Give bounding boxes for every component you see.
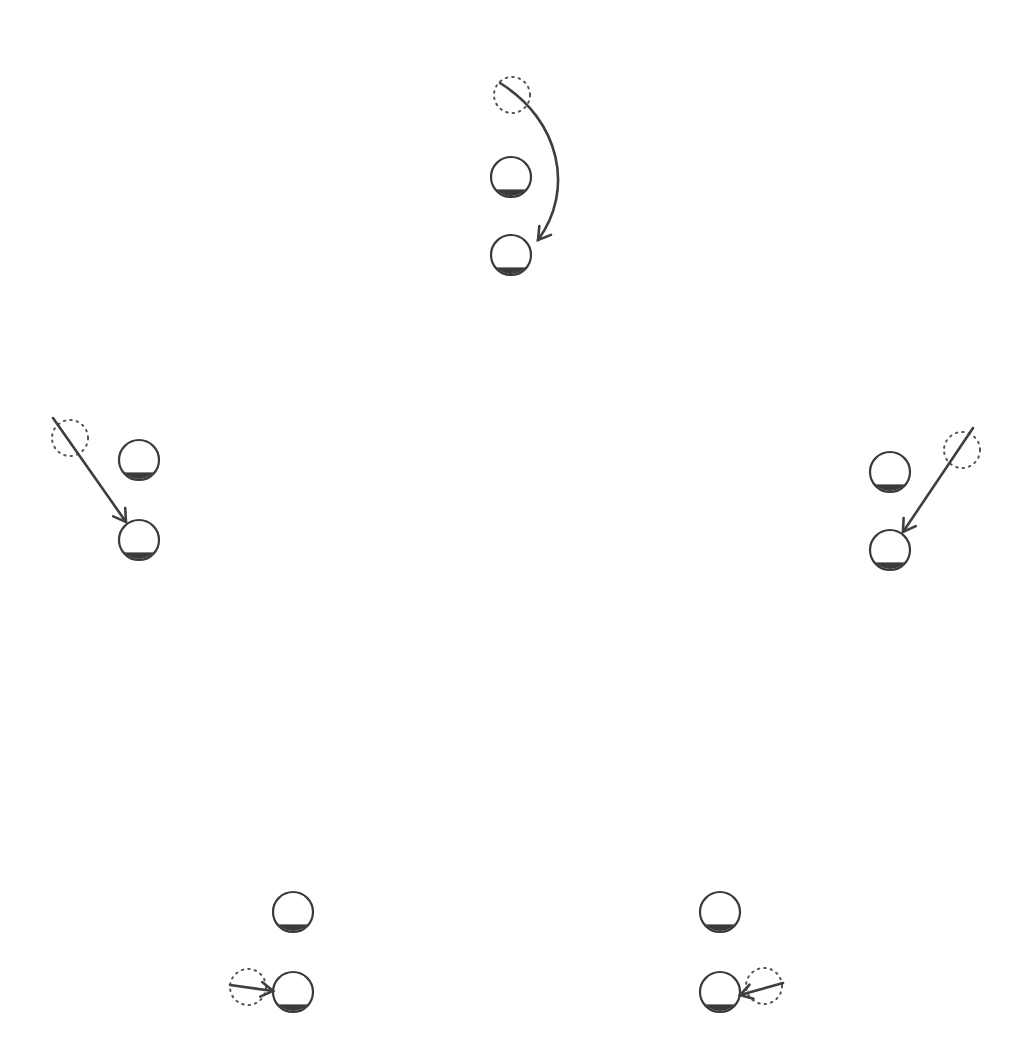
group-right — [870, 428, 980, 582]
target-circle — [491, 235, 531, 287]
reference-circle — [870, 452, 910, 504]
target-circle — [119, 520, 159, 572]
group-left — [52, 418, 159, 572]
diagram-canvas — [0, 0, 1022, 1053]
arrowhead-icon — [903, 518, 916, 532]
group-bottom-right — [700, 892, 783, 1024]
movement-arrow — [53, 418, 126, 522]
target-circle — [870, 530, 910, 582]
movement-arrow — [903, 428, 973, 532]
target-circle — [700, 972, 740, 1024]
reference-circle — [119, 440, 159, 492]
reference-circle — [273, 892, 313, 944]
group-top — [491, 77, 558, 287]
reference-circle — [700, 892, 740, 944]
target-circle — [273, 972, 313, 1024]
group-bottom-left — [230, 892, 313, 1024]
reference-circle — [491, 157, 531, 209]
